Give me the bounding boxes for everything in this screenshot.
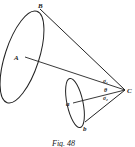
label-theta: θ: [104, 87, 108, 93]
label-A: A: [13, 54, 19, 62]
line-B-C: [40, 9, 125, 90]
label-sigma1: σ₁: [103, 78, 108, 84]
label-C: C: [127, 87, 132, 95]
cone-diagram: B A a b C σ₁ θ σ₂ Fig. 48: [0, 0, 135, 147]
label-a: a: [66, 100, 70, 108]
label-sigma2: σ₂: [103, 95, 108, 101]
line-A-C: [25, 57, 125, 90]
figure-caption: Fig. 48: [51, 139, 75, 147]
label-B: B: [37, 2, 43, 10]
large-circle-ellipse: [0, 6, 53, 108]
label-b: b: [83, 125, 87, 133]
